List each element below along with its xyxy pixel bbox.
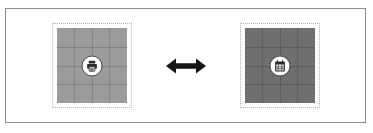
tile-panel-right[interactable] (240, 23, 320, 108)
grid-line-horizontal (245, 84, 315, 85)
grid-line-horizontal (57, 47, 127, 48)
grid-line-horizontal (245, 47, 315, 48)
tile-panel-left[interactable] (52, 23, 132, 108)
comparison-row (6, 9, 365, 122)
tile-badge-right[interactable] (269, 55, 290, 76)
grid-line-horizontal (57, 84, 127, 85)
printer-icon (85, 59, 98, 72)
tile-badge-left[interactable] (81, 55, 102, 76)
double-arrow-horizontal-icon (166, 55, 206, 77)
figure-root (0, 0, 373, 133)
calendar-icon (273, 59, 286, 72)
figure-frame (5, 8, 366, 123)
tile-surface-left (57, 28, 127, 103)
tile-surface-right (245, 28, 315, 103)
